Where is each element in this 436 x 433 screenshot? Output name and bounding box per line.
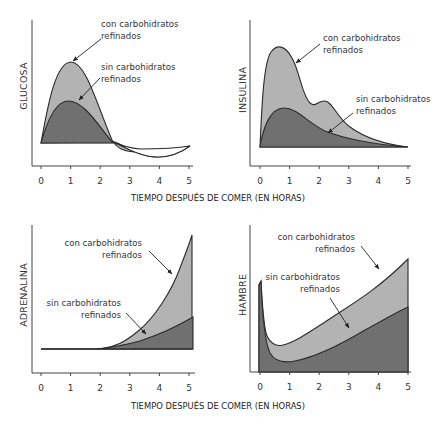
x-tick-label: 5: [186, 176, 192, 186]
arrow-con: [296, 44, 320, 63]
chart-hambre: 0 1 2 3 4 5 HAMBRE con carbohidratos ref…: [237, 225, 411, 392]
annotation-con: con carbohidratos: [323, 33, 401, 43]
x-tick-label: 2: [316, 382, 322, 392]
annotation-sin-2: refinados: [300, 284, 340, 294]
x-tick-label: 2: [97, 176, 103, 186]
annotation-sin: sin carbohidratos: [266, 272, 341, 282]
y-axis-label: GLUCOSA: [18, 62, 29, 110]
y-axis-label: INSULINA: [237, 67, 248, 113]
x-tick-label: 3: [127, 383, 133, 393]
x-tick-label: 4: [376, 176, 382, 186]
x-tick-label: 1: [68, 176, 74, 186]
x-tick-label: 1: [68, 383, 74, 393]
figure-canvas: 0 1 2 3 4 5 GLUCOSA con carbohidratos re…: [0, 0, 436, 433]
x-tick-label: 2: [316, 176, 322, 186]
x-tick-label: 5: [186, 383, 192, 393]
x-tick-label: 2: [97, 383, 103, 393]
annotation-con: con carbohidratos: [64, 238, 142, 248]
x-tick-label: 1: [287, 382, 293, 392]
x-tick-label: 0: [38, 176, 44, 186]
x-tick-label: 1: [287, 176, 293, 186]
x-tick-label: 3: [346, 176, 352, 186]
arrow-con: [149, 251, 172, 274]
annotation-sin-2: refinados: [81, 310, 121, 320]
x-tick-label: 5: [405, 176, 411, 186]
chart-insulina: 0 1 2 3 4 5 INSULINA con carbohidratos r…: [237, 20, 431, 186]
x-axis-label-top: TIEMPO DESPUÉS DE COMER (EN HORAS): [130, 192, 305, 203]
annotation-con-2: refinados: [101, 31, 141, 41]
y-axis-label: HAMBRE: [237, 274, 248, 316]
annotation-sin: sin carbohidratos: [101, 62, 176, 72]
x-tick-label: 0: [257, 176, 263, 186]
annotation-sin-2: refinados: [101, 74, 141, 84]
annotation-sin: sin carbohidratos: [47, 298, 122, 308]
arrow-con: [361, 246, 379, 269]
x-tick-label: 4: [157, 176, 163, 186]
arrow-sin: [126, 313, 146, 334]
x-tick-label: 3: [127, 176, 133, 186]
annotation-con-2: refinados: [315, 244, 355, 254]
x-tick-label: 0: [38, 383, 44, 393]
x-tick-label: 4: [376, 382, 382, 392]
arrow-con: [73, 39, 101, 61]
chart-glucosa: 0 1 2 3 4 5 GLUCOSA con carbohidratos re…: [18, 19, 193, 186]
annotation-sin-2: refinados: [356, 106, 396, 116]
y-axis-label: ADRENALINA: [18, 263, 29, 327]
x-axis-label-bottom: TIEMPO DESPUÉS DE COMER (EN HORAS): [130, 400, 305, 411]
annotation-con: con carbohidratos: [277, 232, 355, 242]
x-tick-label: 3: [346, 382, 352, 392]
annotation-con-2: refinados: [323, 45, 363, 55]
x-tick-label: 5: [405, 382, 411, 392]
x-tick-label: 0: [257, 382, 263, 392]
chart-adrenalina: 0 1 2 3 4 5 ADRENALINA con carbohidratos…: [18, 225, 195, 393]
x-tick-label: 4: [157, 383, 163, 393]
annotation-sin: sin carbohidratos: [356, 94, 431, 104]
annotation-con: con carbohidratos: [101, 19, 179, 29]
annotation-con-2: refinados: [102, 250, 142, 260]
